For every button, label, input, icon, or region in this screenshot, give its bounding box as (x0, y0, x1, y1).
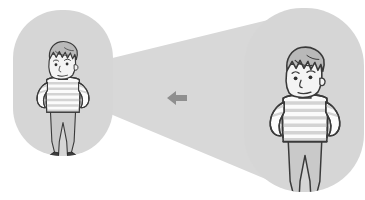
zoom-illustration (0, 0, 365, 200)
illustration-canvas: Zoom comparison of cartoon boy A small c… (0, 0, 365, 200)
